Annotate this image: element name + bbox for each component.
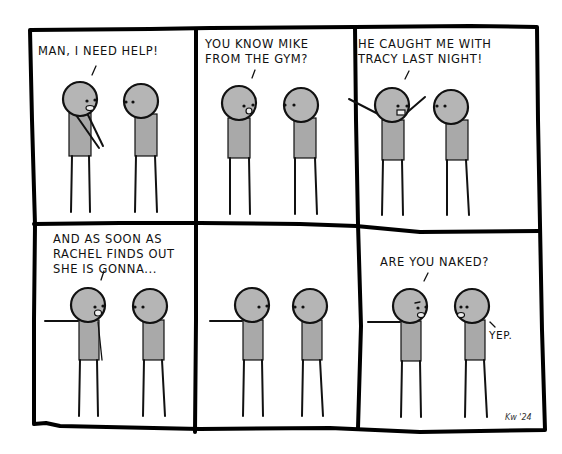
panel-6 xyxy=(368,273,495,417)
panel-5 xyxy=(210,288,327,416)
comic-strip: MAN, I NEED HELP! YOU KNOW MIKE FROM THE… xyxy=(0,0,562,454)
comic-artwork xyxy=(0,0,562,454)
panel-1 xyxy=(63,66,158,212)
panel-3 xyxy=(349,71,469,215)
panel-2 xyxy=(222,70,318,214)
panel-borders xyxy=(30,26,545,432)
panel-4 xyxy=(45,271,167,416)
